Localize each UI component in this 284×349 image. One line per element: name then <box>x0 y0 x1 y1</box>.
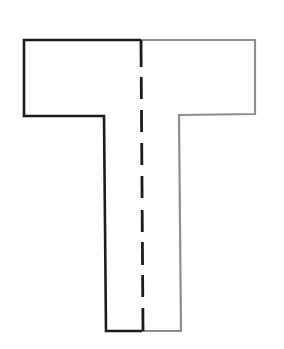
t-shape-diagram <box>0 0 284 349</box>
symmetry-axis-dashed-line <box>141 40 143 331</box>
left-half-path <box>24 40 142 331</box>
right-half-outline <box>141 40 255 331</box>
left-half-outline <box>24 40 142 331</box>
right-half-path <box>141 40 255 331</box>
